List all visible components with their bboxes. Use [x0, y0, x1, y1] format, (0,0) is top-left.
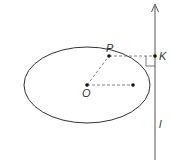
ellipse-diagram: P K O l	[0, 0, 170, 166]
label-l: l	[159, 118, 162, 130]
label-P: P	[106, 42, 114, 54]
label-O: O	[82, 87, 91, 99]
label-K: K	[159, 50, 167, 62]
point-P	[107, 54, 111, 58]
segment-OP	[87, 56, 109, 85]
right-angle-marker	[146, 56, 155, 66]
point-K	[153, 54, 157, 58]
point-vertex	[131, 83, 135, 87]
